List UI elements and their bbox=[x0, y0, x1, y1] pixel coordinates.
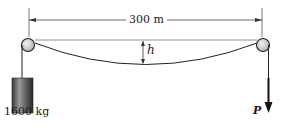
sag-dimension bbox=[141, 41, 145, 64]
arrow-right-icon bbox=[255, 18, 262, 22]
cable-diagram: 300 m h 1600 kg P bbox=[0, 0, 282, 136]
arrow-up-icon bbox=[141, 41, 145, 46]
mass-label: 1600 kg bbox=[4, 105, 49, 118]
arrow-left-icon bbox=[29, 18, 36, 22]
right-pulley-icon bbox=[257, 39, 270, 52]
sag-label: h bbox=[147, 43, 155, 57]
span-label: 300 m bbox=[126, 13, 167, 26]
force-label: P bbox=[253, 104, 261, 117]
left-pulley-icon bbox=[22, 39, 35, 52]
cable bbox=[35, 43, 257, 65]
arrow-down-icon bbox=[141, 59, 145, 64]
force-arrow-icon bbox=[265, 102, 273, 113]
